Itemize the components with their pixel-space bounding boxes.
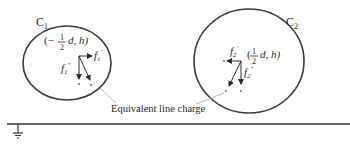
svg-text:(: ( xyxy=(247,48,251,61)
equivalent-line-charge-label: Equivalent line charge xyxy=(111,103,206,114)
force-label-f2-double-prime: f2″ xyxy=(244,65,254,80)
leader-line-1 xyxy=(100,88,116,103)
conductor-2-label: C2 xyxy=(286,15,298,31)
conductor-1-coordinates: (− 1 2 d, h) xyxy=(44,33,89,52)
force-label-f2-prime: f2′ xyxy=(230,44,239,59)
line-charge-diagram: C1 (− 1 2 d, h) f1′ f1″ C2 ( 1 2 d, h) xyxy=(0,0,350,147)
conductor-1: C1 (− 1 2 d, h) f1′ f1″ xyxy=(23,15,111,100)
force-arrow-resultant-1 xyxy=(79,56,90,80)
svg-text:d, h): d, h) xyxy=(68,34,89,47)
force-label-f1-prime: f1′ xyxy=(94,48,103,63)
svg-text:1: 1 xyxy=(252,47,256,56)
conductor-2: C2 ( 1 2 d, h) f2′ f2″ xyxy=(194,9,304,113)
svg-text:2: 2 xyxy=(60,43,64,52)
svg-text:1: 1 xyxy=(60,33,64,42)
svg-text:(−: (− xyxy=(44,34,54,47)
ground-icon xyxy=(13,124,23,138)
force-arrow-resultant-2 xyxy=(229,61,241,86)
force-label-f1-double-prime: f1″ xyxy=(61,61,71,76)
conductor-1-label: C1 xyxy=(36,15,48,31)
svg-text:d, h): d, h) xyxy=(260,48,281,61)
conductor-2-coordinates: ( 1 2 d, h) xyxy=(247,47,281,66)
